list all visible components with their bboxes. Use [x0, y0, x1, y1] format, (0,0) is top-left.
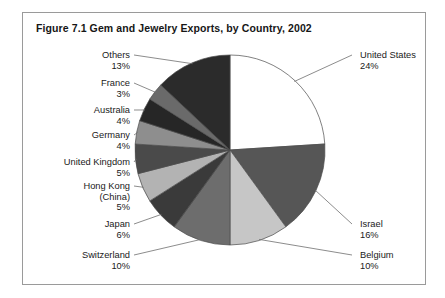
leader-line: [134, 55, 193, 64]
leader-line: [134, 83, 156, 92]
slice-label-germany: Germany 4%: [30, 130, 130, 151]
slice-label-value: 5%: [26, 202, 130, 213]
slice-label-name: Switzerland: [28, 250, 130, 261]
leader-line: [259, 239, 352, 255]
slice-label-name: Belgium: [360, 250, 394, 261]
slice-label-name: Hong Kong: [26, 181, 130, 192]
pie-slices: [135, 55, 325, 245]
slice-label-name: Israel: [360, 219, 383, 230]
slice-label-united-states: United States 24%: [360, 50, 416, 71]
slice-label-belgium: Belgium 10%: [360, 250, 394, 271]
leader-line: [134, 214, 161, 224]
slice-label-value: 16%: [360, 230, 383, 241]
slice-label-value: 10%: [360, 261, 394, 272]
slice-label-name: United Kingdom: [16, 157, 130, 168]
slice-label-switzerland: Switzerland 10%: [28, 250, 130, 271]
slice-label-france: France 3%: [30, 78, 130, 99]
slice-label-value: 6%: [40, 230, 130, 241]
slice-label-israel: Israel 16%: [360, 219, 383, 240]
leader-line: [134, 239, 201, 255]
slice-label-others: Others 13%: [30, 50, 130, 71]
slice-label-name: Others: [30, 50, 130, 61]
slice-label-name: United States: [360, 50, 416, 61]
pie-slice: [230, 55, 325, 150]
slice-label-united-kingdom: United Kingdom 5%: [16, 157, 130, 178]
slice-label-value: 5%: [16, 168, 130, 179]
slice-label-value: 4%: [30, 116, 130, 127]
slice-label-value: 24%: [360, 61, 416, 72]
slice-label-value: 10%: [28, 261, 130, 272]
slice-label-name: France: [30, 78, 130, 89]
leader-line: [294, 55, 352, 81]
slice-label-japan: Japan 6%: [40, 219, 130, 240]
slice-label-value: 13%: [30, 61, 130, 72]
slice-label-hong-kong-china: Hong Kong (China) 5%: [26, 181, 130, 213]
leader-line: [315, 190, 352, 224]
slice-label-name: Australia: [30, 105, 130, 116]
slice-label-name: Germany: [30, 130, 130, 141]
slice-label-name-2: (China): [26, 192, 130, 203]
slice-label-value: 4%: [30, 141, 130, 152]
slice-label-value: 3%: [30, 89, 130, 100]
slice-label-australia: Australia 4%: [30, 105, 130, 126]
slice-label-name: Japan: [40, 219, 130, 230]
